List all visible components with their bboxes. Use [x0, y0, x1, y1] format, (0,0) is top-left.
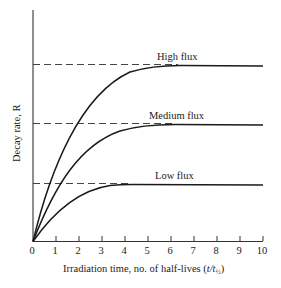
x-tick-label: 3 [98, 246, 103, 257]
x-tick-label: 1 [52, 246, 57, 257]
x-tick-label: 8 [213, 246, 218, 257]
x-tick-label: 0 [29, 246, 34, 257]
y-axis-label: Decay rate, R [11, 105, 22, 162]
x-tick-label: 6 [167, 246, 172, 257]
x-tick-label: 10 [257, 246, 268, 257]
low-flux-label: Low flux [155, 171, 194, 182]
x-axis-label: Irradiation time, no. of half-lives (t/t… [63, 263, 224, 276]
x-tick-label: 5 [144, 246, 149, 257]
x-tick-label: 9 [236, 246, 241, 257]
saturation-dashed-lines [33, 65, 178, 184]
high-flux-curve [33, 66, 263, 242]
low-flux-curve [33, 185, 263, 242]
high-flux-label: High flux [157, 52, 198, 63]
x-tick-label: 7 [190, 246, 195, 257]
x-tick-label: 2 [75, 246, 80, 257]
x-tick-label: 4 [121, 246, 126, 257]
x-ticks [56, 236, 263, 241]
medium-flux-label: Medium flux [149, 111, 204, 122]
